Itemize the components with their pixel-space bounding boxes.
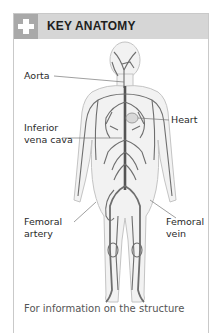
plus-cross-icon bbox=[14, 14, 38, 39]
key-anatomy-box: KEY ANATOMY bbox=[13, 13, 209, 333]
label-heart: Heart bbox=[171, 114, 197, 126]
label-aorta: Aorta bbox=[24, 70, 50, 82]
label-femoral-vein: Femoralvein bbox=[166, 216, 204, 240]
circulatory-system-illustration: Aorta Heart Inferiorvena cava Femoralart… bbox=[14, 40, 208, 310]
section-title: KEY ANATOMY bbox=[47, 18, 136, 33]
caption-text: For information on the structure bbox=[24, 303, 184, 314]
label-femoral-artery: Femoralartery bbox=[24, 216, 62, 240]
label-inferior-vena-cava: Inferiorvena cava bbox=[24, 122, 73, 146]
section-header: KEY ANATOMY bbox=[14, 14, 208, 39]
